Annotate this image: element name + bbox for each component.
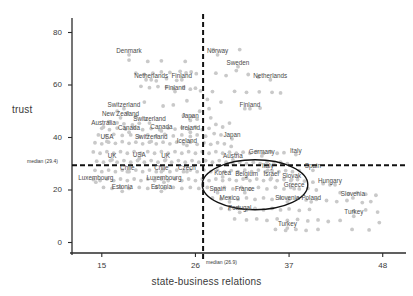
data-point	[274, 185, 278, 189]
point-label: Netherlands	[134, 71, 168, 78]
point-label: Canada	[150, 122, 172, 129]
point-label: Austria	[223, 151, 243, 158]
data-point	[245, 90, 249, 94]
data-point	[125, 170, 129, 174]
data-point	[137, 157, 141, 161]
data-point	[279, 208, 283, 212]
data-point	[171, 103, 175, 107]
data-point	[328, 183, 332, 187]
data-point	[94, 180, 98, 184]
point-label: Japan	[223, 130, 240, 137]
data-point	[102, 160, 106, 164]
data-point	[148, 86, 152, 90]
data-point	[188, 87, 192, 91]
data-point	[204, 159, 208, 163]
point-label: Denmark	[116, 46, 142, 53]
data-point	[360, 201, 364, 205]
y-tick-label: 80	[38, 28, 62, 37]
data-point	[173, 127, 177, 131]
data-point	[205, 98, 209, 102]
data-point	[120, 134, 124, 138]
data-point	[265, 219, 269, 223]
data-point	[134, 168, 138, 172]
point-label: USA	[133, 150, 146, 157]
data-point	[120, 140, 124, 144]
data-point	[180, 187, 184, 191]
data-point	[212, 132, 216, 136]
data-point	[314, 188, 318, 192]
data-point	[262, 179, 266, 183]
data-point	[93, 168, 97, 172]
data-point	[175, 78, 179, 82]
point-label: Italy	[290, 146, 302, 153]
data-point	[233, 89, 237, 93]
data-point	[119, 116, 123, 120]
point-label: UK	[161, 151, 170, 158]
point-label: Sweden	[227, 58, 250, 65]
data-point	[253, 198, 257, 202]
data-point	[219, 206, 223, 210]
data-point	[105, 140, 109, 144]
point-label: Turkey	[278, 220, 297, 227]
x-median-label: median (26.9)	[206, 259, 237, 265]
point-label: Norway	[207, 46, 228, 53]
data-point	[260, 154, 264, 158]
data-point	[292, 187, 296, 191]
data-point	[159, 189, 163, 193]
data-point	[141, 142, 145, 146]
data-point	[376, 210, 380, 214]
point-label: France	[235, 184, 255, 191]
data-point	[333, 183, 337, 187]
data-point	[243, 191, 247, 195]
point-label: Turkey	[344, 208, 363, 215]
data-point	[268, 78, 272, 82]
point-label: Finland	[165, 83, 186, 90]
data-point	[134, 140, 138, 144]
data-point	[142, 160, 146, 164]
y-tick-label: 40	[38, 133, 62, 142]
data-point	[245, 218, 249, 222]
point-label: Chile	[154, 163, 168, 170]
point-label: Ireland	[181, 124, 200, 131]
data-point	[221, 125, 225, 129]
data-point	[207, 179, 211, 183]
data-point	[187, 177, 191, 181]
data-point	[216, 141, 220, 145]
data-point	[352, 214, 356, 218]
data-point	[311, 168, 315, 172]
point-label: Greece	[284, 180, 305, 187]
data-point	[245, 196, 249, 200]
data-point	[282, 187, 286, 191]
data-point	[377, 221, 381, 225]
data-point	[306, 219, 310, 223]
data-point	[194, 86, 198, 90]
point-label: Netherlands	[253, 71, 287, 78]
data-point	[251, 160, 255, 164]
data-point	[185, 99, 189, 103]
data-point	[309, 200, 313, 204]
point-label: UK	[108, 151, 117, 158]
data-point	[351, 196, 355, 200]
data-point	[153, 151, 157, 155]
data-point	[127, 130, 131, 134]
data-point	[171, 185, 175, 189]
data-point	[171, 134, 175, 138]
data-point	[297, 187, 301, 191]
data-point	[369, 200, 373, 204]
data-point	[209, 116, 213, 120]
point-label: Iceland	[177, 137, 197, 144]
point-label: Finland	[171, 71, 192, 78]
data-point	[255, 217, 259, 221]
data-point	[154, 79, 158, 83]
data-point	[228, 121, 232, 125]
scatter-plot-figure: trust state-business relations DenmarkNo…	[0, 0, 413, 296]
data-point	[168, 142, 172, 146]
data-point	[285, 200, 289, 204]
data-point	[120, 189, 124, 193]
point-label: Germany	[249, 147, 275, 154]
data-point	[185, 143, 189, 147]
data-point	[127, 58, 131, 62]
point-label: Slovenia	[341, 189, 365, 196]
data-point	[107, 168, 111, 172]
data-point	[170, 160, 174, 164]
